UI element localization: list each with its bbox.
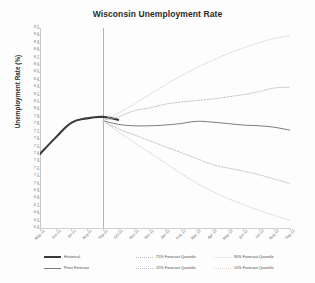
x-axis-tick-mark [103,228,104,231]
y-axis-tick-mark [37,206,40,207]
y-axis-tick-mark [37,198,40,199]
y-axis-tick-mark [37,109,40,110]
y-axis-tick-mark [37,139,40,140]
x-axis-tick-mark [259,228,260,231]
y-axis-tick-mark [37,221,40,222]
x-axis-tick-mark [228,228,229,231]
legend-item[interactable]: 25% Forecast Quantile [136,263,196,273]
legend-swatch-icon [214,257,231,258]
y-axis-tick-mark [37,161,40,162]
chart-legend: HistoricalPoint Forecast75% Forecast Qua… [44,252,294,278]
legend-item[interactable]: 75% Forecast Quantile [136,252,196,262]
y-axis-title: Unemployment Rate (%) [14,47,21,137]
x-axis-tick-mark [71,228,72,231]
chart-series-layer [40,28,290,228]
y-axis-tick-mark [37,191,40,192]
y-axis-tick-mark [37,102,40,103]
x-axis-tick-mark [165,228,166,231]
series-line [103,121,291,184]
y-axis-tick-mark [37,28,40,29]
x-axis-tick-mark [118,228,119,231]
y-axis-tick-mark [37,50,40,51]
x-axis-tick-mark [212,228,213,231]
legend-swatch-icon [44,268,61,269]
legend-item[interactable]: 10% Forecast Quantile [214,263,274,273]
y-axis-tick-mark [37,65,40,66]
y-axis-tick-mark [37,95,40,96]
legend-item[interactable]: 90% Forecast Quantile [214,252,274,262]
legend-swatch-icon [136,268,153,269]
series-line [103,121,291,221]
x-axis-tick-mark [181,228,182,231]
legend-swatch-icon [214,268,231,269]
y-axis-tick-mark [37,58,40,59]
legend-label: Point Forecast [64,266,89,270]
y-axis-tick-mark [37,124,40,125]
x-axis-tick-mark [56,228,57,231]
legend-label: 10% Forecast Quantile [234,266,274,270]
legend-label: 75% Forecast Quantile [156,255,196,259]
x-axis-tick-mark [40,228,41,231]
x-axis-tick-mark [134,228,135,231]
x-axis-tick-mark [149,228,150,231]
x-axis-tick-mark [290,228,291,231]
y-axis-tick-mark [37,80,40,81]
chart-title: Wisconsin Unemployment Rate [0,9,315,19]
x-axis-tick-mark [196,228,197,231]
y-axis-tick-mark [37,43,40,44]
x-axis-tick-mark [243,228,244,231]
y-axis-tick-mark [37,169,40,170]
series-line [103,87,291,120]
x-axis-tick-mark [274,228,275,231]
y-axis-tick-mark [37,176,40,177]
y-axis-tick-mark [37,117,40,118]
y-axis-tick-mark [37,154,40,155]
y-axis-tick-mark [37,72,40,73]
y-axis-tick-mark [37,35,40,36]
series-line [103,35,291,120]
legend-swatch-icon [136,257,153,258]
y-axis-tick-mark [37,184,40,185]
y-axis-tick-mark [37,147,40,148]
legend-label: 25% Forecast Quantile [156,266,196,270]
x-axis-tick-mark [87,228,88,231]
legend-label: 90% Forecast Quantile [234,255,274,259]
legend-item[interactable]: Historical [44,252,80,262]
chart-container: Wisconsin Unemployment Rate Unemployment… [0,0,315,283]
legend-item[interactable]: Point Forecast [44,263,89,273]
y-axis-tick-mark [37,213,40,214]
y-axis-tick-mark [37,87,40,88]
legend-swatch-icon [44,256,61,258]
series-line [103,121,291,131]
y-axis-tick-mark [37,132,40,133]
legend-label: Historical [64,255,80,259]
